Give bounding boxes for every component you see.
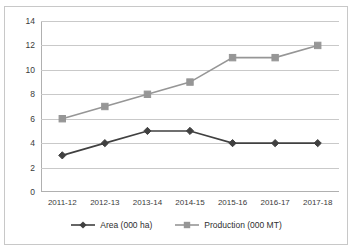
chart-legend: Area (000 ha)Production (000 MT) [5,220,347,230]
data-point-marker [315,42,321,48]
plot-area: 02468101214 2011-122012-132013-142014-15… [41,21,339,192]
chart-container: 02468101214 2011-122012-132013-142014-15… [4,6,348,245]
y-axis-tick-label: 6 [30,114,35,124]
legend-marker-icon [174,220,200,230]
data-point-marker [229,140,236,147]
data-point-marker [144,91,150,97]
x-axis-tick-label: 2015-16 [218,198,247,207]
y-axis-tick-label: 2 [30,163,35,173]
y-axis-tick-label: 12 [26,40,35,50]
legend-marker-icon [70,220,96,230]
x-axis-tick-label: 2013-14 [133,198,162,207]
legend-label: Production (000 MT) [204,220,281,230]
y-axis-tick-label: 14 [26,16,35,26]
legend-entry[interactable]: Area (000 ha) [70,220,152,230]
data-point-marker [186,127,193,134]
data-point-marker [102,103,108,109]
data-point-marker [272,140,279,147]
x-axis-tick-label: 2014-15 [175,198,204,207]
legend-label: Area (000 ha) [100,220,152,230]
series-layer [41,21,339,192]
x-axis-tick-label: 2017-18 [303,198,332,207]
data-point-marker [187,79,193,85]
series-square [59,42,321,122]
data-point-marker [59,152,66,159]
data-point-marker [101,140,108,147]
x-axis-tick-label: 2012-13 [90,198,119,207]
data-point-marker [314,140,321,147]
y-axis-tick-label: 0 [30,187,35,197]
data-point-marker [272,54,278,60]
legend-entry[interactable]: Production (000 MT) [174,220,281,230]
data-point-marker [59,116,65,122]
y-axis-tick-label: 8 [30,89,35,99]
x-axis-tick-label: 2011-12 [48,198,77,207]
y-axis-tick-label: 4 [30,138,35,148]
x-axis-tick-label: 2016-17 [260,198,289,207]
series-diamond [59,127,322,159]
data-point-marker [144,127,151,134]
y-axis-tick-label: 10 [26,65,35,75]
data-point-marker [229,54,235,60]
